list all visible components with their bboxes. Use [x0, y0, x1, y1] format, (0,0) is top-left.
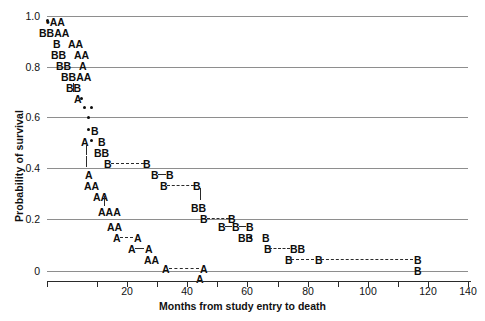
data-mark: AA: [74, 50, 89, 60]
data-mark: B: [246, 222, 254, 232]
x-tick-mark: [217, 281, 218, 287]
data-mark: BB: [94, 148, 109, 158]
data-mark: AAA: [98, 207, 121, 217]
data-mark: AA: [68, 39, 83, 49]
data-mark: BB: [51, 50, 66, 60]
data-mark: •AA: [46, 17, 65, 27]
dot-marker: [80, 97, 83, 100]
vertical-connector: [86, 156, 87, 167]
data-mark: B: [53, 39, 61, 49]
data-mark: A: [128, 244, 136, 254]
data-mark: B: [315, 255, 323, 265]
x-axis-title: Months from study entry to death: [0, 300, 485, 312]
y-tick-label: 1.0: [8, 10, 40, 22]
dot-marker: [87, 128, 90, 131]
dot-marker: [46, 19, 49, 22]
dot-marker: [87, 116, 90, 119]
data-mark: B: [200, 214, 208, 224]
data-mark: B: [218, 222, 226, 232]
data-mark: A: [81, 137, 89, 147]
solid-connector: [225, 226, 232, 227]
data-mark: B: [232, 222, 240, 232]
solid-connector: [158, 174, 166, 175]
data-mark: B: [285, 255, 293, 265]
x-tick-label: 60: [227, 285, 267, 297]
dot-marker: [90, 106, 93, 109]
x-tick-mark: [338, 281, 339, 287]
dashed-connector: [291, 259, 314, 260]
x-tick-label: 100: [348, 285, 388, 297]
data-mark: AA: [93, 192, 108, 202]
vertical-connector: [200, 188, 201, 200]
x-tick-mark: [278, 281, 279, 287]
y-tick-label: 0.6: [8, 111, 40, 123]
y-tick-label: 0: [8, 265, 40, 277]
x-tick-label: 20: [107, 285, 147, 297]
y-tick-label: 0.8: [8, 61, 40, 73]
dashed-connector: [111, 163, 144, 164]
data-mark: A: [196, 274, 204, 284]
x-tick-label: 80: [288, 285, 328, 297]
dashed-connector: [167, 185, 194, 186]
solid-connector: [135, 248, 144, 249]
data-mark: B: [104, 159, 112, 169]
dashed-connector: [321, 259, 413, 260]
data-mark: B: [98, 137, 106, 147]
dashed-connector: [120, 237, 133, 238]
survival-chart: Probability of survival 1.00.80.60.40.20…: [0, 0, 485, 321]
y-tick-label: 0.2: [8, 213, 40, 225]
data-mark: BB: [191, 203, 206, 213]
x-tick-mark: [157, 281, 158, 287]
data-mark: B: [414, 255, 422, 265]
dot-marker: [90, 139, 93, 142]
data-mark: B: [414, 266, 422, 276]
vertical-connector: [104, 196, 105, 206]
dashed-connector: [207, 218, 229, 219]
x-tick-mark: [47, 281, 48, 287]
data-mark: BBAA: [39, 28, 69, 38]
x-tick-label: 120: [408, 285, 448, 297]
dot-marker: [249, 236, 252, 239]
y-tick-label: 0.4: [8, 162, 40, 174]
data-mark: B: [262, 233, 270, 243]
data-mark: A: [145, 244, 153, 254]
x-tick-mark: [97, 281, 98, 287]
data-mark: A: [113, 233, 121, 243]
solid-connector: [239, 226, 246, 227]
data-mark: B: [264, 244, 272, 254]
data-mark: A: [134, 233, 142, 243]
data-mark: B: [166, 170, 174, 180]
data-mark: B: [151, 170, 159, 180]
dot-marker: [83, 106, 86, 109]
data-mark: A: [162, 264, 170, 274]
dashed-connector: [269, 248, 290, 249]
x-tick-mark: [398, 281, 399, 287]
x-tick-label: 140: [448, 285, 485, 297]
vertical-connector: [73, 83, 74, 92]
data-mark: B: [91, 126, 99, 136]
data-mark: B: [143, 159, 151, 169]
gridline: [47, 117, 468, 118]
dashed-connector: [169, 268, 199, 269]
gridline: [47, 219, 468, 220]
data-mark: AA: [107, 222, 122, 232]
data-mark: BBAA: [61, 72, 91, 82]
data-mark: BB: [290, 244, 305, 254]
x-tick-label: 40: [167, 285, 207, 297]
data-mark: AA: [144, 255, 159, 265]
gridline: [47, 67, 468, 68]
data-mark: BB: [56, 61, 71, 71]
data-mark: A: [79, 61, 87, 71]
data-mark: A: [85, 170, 93, 180]
data-mark: B: [160, 181, 168, 191]
gridline: [47, 271, 468, 272]
x-axis-line: [47, 281, 471, 282]
data-mark: AA: [84, 181, 99, 191]
gridline: [47, 16, 468, 17]
vertical-connector: [86, 145, 87, 155]
